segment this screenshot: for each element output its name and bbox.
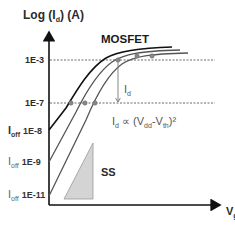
ioff-label-3: Ioff 1E-11	[8, 188, 45, 202]
chart-title: MOSFET	[101, 33, 149, 45]
ioff-label-1: Ioff 1E-8	[8, 124, 42, 138]
id-label: Id	[124, 83, 131, 97]
ss-triangle	[64, 143, 93, 199]
intersection-markers	[69, 54, 154, 105]
tick-1e7: 1E-7	[25, 98, 44, 108]
equation-label: Id ∝ (Vdd-Vth)²	[112, 115, 176, 129]
curve-2	[49, 50, 180, 162]
ioff-label-2: Ioff 1E-9	[8, 155, 41, 169]
x-axis-title: Vg	[226, 205, 235, 219]
ss-label: SS	[101, 166, 116, 178]
tick-1e3: 1E-3	[25, 55, 44, 65]
y-axis-title: Log (Id) (A)	[23, 8, 84, 23]
